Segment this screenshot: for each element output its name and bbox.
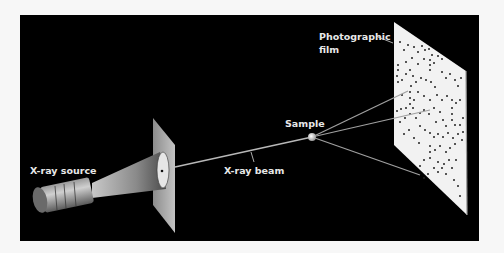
xray-source-icon xyxy=(30,177,94,214)
sample-icon xyxy=(308,133,316,141)
label-photographic-film-line1: Photographic xyxy=(319,31,391,42)
label-xray-source: X-ray source xyxy=(30,165,97,176)
beam-leader-line xyxy=(251,152,254,162)
label-xray-beam: X-ray beam xyxy=(224,165,284,176)
xray-diffraction-diagram: X-ray source X-ray beam Sample Photograp… xyxy=(0,0,504,253)
label-photographic-film-line2: film xyxy=(319,44,339,55)
aperture-pinhole xyxy=(161,170,164,173)
label-sample: Sample xyxy=(285,118,325,129)
xray-beam xyxy=(175,137,312,167)
aperture-opening xyxy=(157,152,169,188)
